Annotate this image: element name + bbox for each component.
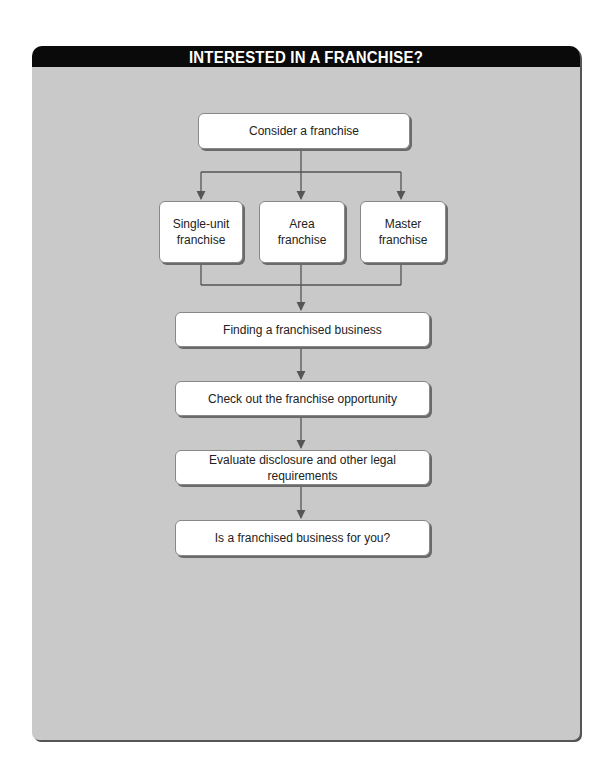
branch-label-line1: Single-unit xyxy=(173,216,230,232)
step-label: Is a franchised business for you? xyxy=(215,530,390,546)
step-box-is-it-for-you: Is a franchised business for you? xyxy=(175,520,430,556)
step-label: Finding a franchised business xyxy=(223,322,382,338)
step-label: Evaluate disclosure and other legal requ… xyxy=(176,452,429,484)
step-box-evaluate-disclosure: Evaluate disclosure and other legal requ… xyxy=(175,450,430,485)
branch-label-line1: Area xyxy=(289,216,314,232)
step-box-check-opportunity: Check out the franchise opportunity xyxy=(175,381,430,416)
branch-label-line2: franchise xyxy=(177,232,226,248)
branch-box-master: Master franchise xyxy=(360,201,446,263)
panel-title: INTERESTED IN A FRANCHISE? xyxy=(32,49,580,67)
step-label: Check out the franchise opportunity xyxy=(208,391,397,407)
start-box-label: Consider a franchise xyxy=(249,123,359,139)
step-box-finding-business: Finding a franchised business xyxy=(175,312,430,347)
branch-label-line1: Master xyxy=(385,216,422,232)
branch-label-line2: franchise xyxy=(379,232,428,248)
branch-label-line2: franchise xyxy=(278,232,327,248)
start-box-consider-franchise: Consider a franchise xyxy=(198,113,410,149)
branch-box-area: Area franchise xyxy=(259,201,345,263)
panel-header: INTERESTED IN A FRANCHISE? xyxy=(32,46,580,67)
branch-box-single-unit: Single-unit franchise xyxy=(159,201,243,263)
